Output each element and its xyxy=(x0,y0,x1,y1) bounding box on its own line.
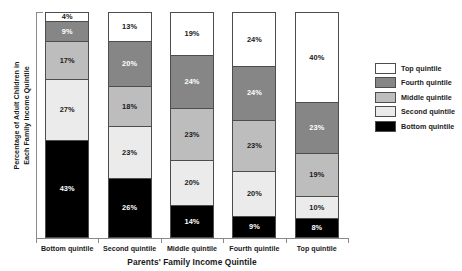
legend-swatch xyxy=(375,92,396,103)
segment-value-label: 24% xyxy=(247,36,262,43)
bar-segment[interactable]: 19% xyxy=(296,154,338,197)
segment-value-label: 9% xyxy=(62,28,73,35)
segment-value-label: 43% xyxy=(60,185,75,192)
segment-value-label: 24% xyxy=(247,89,262,96)
bar-segment[interactable]: 23% xyxy=(233,121,275,173)
bar-segment[interactable]: 19% xyxy=(171,13,213,56)
segment-value-label: 9% xyxy=(249,223,260,230)
bar-group: 24%24%23%20%9% xyxy=(232,12,276,238)
bar-segment[interactable]: 4% xyxy=(46,13,88,22)
bar-segment[interactable]: 43% xyxy=(46,141,88,237)
bar-segment[interactable]: 14% xyxy=(171,206,213,237)
x-axis-category-label: Top quintile xyxy=(286,245,348,253)
bar-segment[interactable]: 9% xyxy=(46,22,88,42)
stacked-bar[interactable]: 4%9%17%27%43% xyxy=(45,12,89,238)
x-axis-tick xyxy=(348,238,349,243)
bar-segment[interactable]: 13% xyxy=(109,13,151,42)
segment-value-label: 19% xyxy=(184,30,199,37)
segment-value-label: 23% xyxy=(309,124,324,131)
x-axis-tick xyxy=(286,238,287,243)
segment-value-label: 8% xyxy=(311,224,322,231)
stacked-bar[interactable]: 19%24%23%20%14% xyxy=(170,12,214,238)
legend-item[interactable]: Bottom quintile xyxy=(375,120,455,132)
legend-label: Top quintile xyxy=(401,64,442,73)
segment-value-label: 18% xyxy=(122,103,137,110)
segment-value-label: 20% xyxy=(184,179,199,186)
segment-value-label: 23% xyxy=(247,142,262,149)
bar-segment[interactable]: 9% xyxy=(233,217,275,237)
bar-segment[interactable]: 24% xyxy=(233,67,275,121)
x-axis-category-label: Fourth quintile xyxy=(223,245,285,253)
stacked-bar[interactable]: 40%23%19%10%8% xyxy=(295,12,339,238)
segment-value-label: 20% xyxy=(122,60,137,67)
bar-segment[interactable]: 20% xyxy=(171,161,213,206)
y-axis-title: Percentage of Adult Children in Each Fam… xyxy=(13,16,32,216)
bar-group: 13%20%18%23%26% xyxy=(108,12,152,238)
stacked-bar[interactable]: 24%24%23%20%9% xyxy=(232,12,276,238)
bar-group: 4%9%17%27%43% xyxy=(45,12,89,238)
bar-segment[interactable]: 8% xyxy=(296,219,338,237)
bar-segment[interactable]: 23% xyxy=(296,103,338,155)
segment-value-label: 27% xyxy=(60,106,75,113)
legend-label: Fourth quintile xyxy=(401,78,452,87)
legend-label: Middle quintile xyxy=(401,93,452,102)
segment-value-label: 13% xyxy=(122,23,137,30)
x-axis-tick xyxy=(98,238,99,243)
bar-segment[interactable]: 24% xyxy=(233,13,275,67)
bar-segment[interactable]: 24% xyxy=(171,56,213,110)
bar-segment[interactable]: 20% xyxy=(233,172,275,217)
segment-value-label: 23% xyxy=(184,131,199,138)
legend-swatch xyxy=(375,63,396,74)
bar-segment[interactable]: 23% xyxy=(171,109,213,161)
x-axis-title: Parents' Family Income Quintile xyxy=(36,257,348,267)
legend-item[interactable]: Middle quintile xyxy=(375,91,455,103)
bar-segment[interactable]: 23% xyxy=(109,127,151,179)
x-axis-category-label: Middle quintile xyxy=(161,245,223,253)
segment-value-label: 26% xyxy=(122,204,137,211)
segment-value-label: 10% xyxy=(309,204,324,211)
x-axis-tick xyxy=(161,238,162,243)
x-axis-category-label: Second quintile xyxy=(98,245,160,253)
legend-swatch xyxy=(375,121,396,132)
legend-label: Second quintile xyxy=(401,107,455,116)
legend-label: Bottom quintile xyxy=(401,122,454,131)
legend-swatch xyxy=(375,77,396,88)
x-axis-category-label: Bottom quintile xyxy=(36,245,98,253)
bar-segment[interactable]: 40% xyxy=(296,13,338,103)
stacked-bar[interactable]: 13%20%18%23%26% xyxy=(108,12,152,238)
legend-item[interactable]: Fourth quintile xyxy=(375,77,455,89)
segment-value-label: 4% xyxy=(62,13,73,20)
bar-segment[interactable]: 18% xyxy=(109,87,151,127)
x-axis-line xyxy=(36,238,348,239)
segment-value-label: 23% xyxy=(122,149,137,156)
bar-segment[interactable]: 10% xyxy=(296,197,338,219)
x-axis-tick xyxy=(223,238,224,243)
plot-area: 4%9%17%27%43%13%20%18%23%26%19%24%23%20%… xyxy=(36,12,348,238)
x-axis-tick xyxy=(36,238,37,243)
legend-item[interactable]: Top quintile xyxy=(375,62,455,74)
legend-item[interactable]: Second quintile xyxy=(375,106,455,118)
segment-value-label: 20% xyxy=(247,190,262,197)
bar-segment[interactable]: 17% xyxy=(46,42,88,80)
segment-value-label: 17% xyxy=(60,57,75,64)
segment-value-label: 19% xyxy=(309,171,324,178)
bar-segment[interactable]: 27% xyxy=(46,80,88,140)
bar-segment[interactable]: 26% xyxy=(109,179,151,237)
chart-legend: Top quintileFourth quintileMiddle quinti… xyxy=(375,62,455,132)
segment-value-label: 24% xyxy=(184,78,199,85)
legend-swatch xyxy=(375,106,396,117)
segment-value-label: 40% xyxy=(309,54,324,61)
bar-segment[interactable]: 20% xyxy=(109,42,151,87)
bar-group: 40%23%19%10%8% xyxy=(295,12,339,238)
segment-value-label: 14% xyxy=(184,218,199,225)
stacked-bar-chart: Percentage of Adult Children in Each Fam… xyxy=(0,0,462,271)
bar-group: 19%24%23%20%14% xyxy=(170,12,214,238)
